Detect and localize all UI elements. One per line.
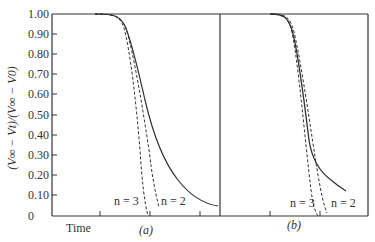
y-tick-040: 0.40 [28, 128, 49, 142]
y-tick-100: 1.00 [28, 7, 49, 21]
curve-b-n3 [270, 14, 318, 216]
y-tick-080: 0.80 [28, 47, 49, 61]
y-tick-030: 0.30 [28, 148, 49, 162]
y-tick-labels: 0 0.10 0.20 0.30 0.40 0.50 0.60 0.70 0.8… [28, 7, 49, 223]
panel-label-b: (b) [287, 218, 301, 232]
figure: 0 0.10 0.20 0.30 0.40 0.50 0.60 0.70 0.8… [0, 0, 375, 242]
x-ticks [100, 211, 320, 216]
y-tick-060: 0.60 [28, 87, 49, 101]
y-tick-090: 0.90 [28, 27, 49, 41]
curve-a-n3 [95, 14, 148, 216]
y-ticks [52, 34, 57, 195]
plot-frame [52, 14, 368, 216]
annotation-b-n3: n = 3 [290, 196, 315, 210]
curve-b-n2 [272, 14, 327, 213]
y-tick-050: 0.50 [28, 108, 49, 122]
annotation-a-n3: n = 3 [114, 194, 139, 208]
y-tick-070: 0.70 [28, 67, 49, 81]
panel-label-a: (a) [139, 223, 153, 237]
y-tick-020: 0.20 [28, 168, 49, 182]
annotation-a-n2: n = 2 [161, 194, 186, 208]
y-tick-010: 0.10 [28, 188, 49, 202]
x-axis-title: Time [66, 221, 91, 235]
y-tick-0: 0 [28, 209, 34, 223]
y-axis-title: (V∞ − Vt)/(V∞ − V0) [5, 66, 19, 169]
curve-a-experimental [95, 14, 218, 206]
annotation-b-n2: n = 2 [331, 196, 356, 210]
panel-b [270, 14, 346, 216]
panel-a [95, 14, 218, 216]
